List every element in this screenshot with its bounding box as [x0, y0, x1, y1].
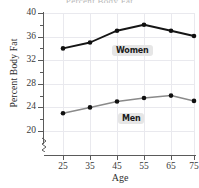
data-point-men-45	[115, 99, 120, 104]
data-point-men-35	[88, 105, 93, 110]
data-point-women-35	[88, 40, 93, 45]
body-fat-line-chart: Percent Body Fat 40 36 32 28 24 20	[0, 0, 199, 188]
data-point-men-65	[169, 93, 174, 98]
series-label-men: Men	[118, 113, 144, 124]
data-point-women-25	[61, 46, 66, 51]
data-point-men-75	[192, 99, 197, 104]
data-point-women-45	[115, 28, 120, 33]
data-point-women-75	[192, 34, 197, 39]
data-point-women-55	[142, 23, 147, 28]
series-layer	[0, 0, 199, 188]
data-point-men-55	[142, 96, 147, 101]
series-line-men	[63, 96, 194, 114]
data-point-men-25	[61, 111, 66, 116]
series-label-women: Women	[112, 45, 153, 56]
data-point-women-65	[169, 28, 174, 33]
